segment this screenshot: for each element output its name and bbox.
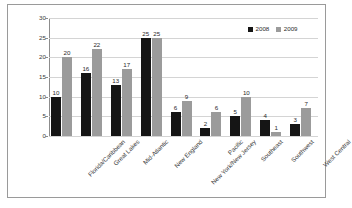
bar-value-label: 22 — [86, 42, 108, 48]
y-tick-0: 0 — [8, 133, 46, 139]
bar-2008 — [230, 116, 240, 136]
y-tick-mark — [45, 116, 48, 117]
bar-group: 26 — [198, 18, 228, 136]
bar-2009 — [211, 112, 221, 136]
bar-2009 — [301, 108, 311, 136]
legend-item-2009: 2009 — [276, 26, 297, 32]
bar-2008 — [141, 38, 151, 136]
legend-label-2009: 2009 — [284, 26, 298, 32]
bar-value-label: 20 — [56, 50, 78, 56]
caption-strip — [7, 192, 326, 204]
y-tick-mark — [45, 97, 48, 98]
legend-swatch-icon-2009 — [276, 27, 281, 32]
bar-2008 — [200, 128, 210, 136]
bar-2009 — [271, 132, 281, 136]
y-tick-label: 25 — [12, 35, 46, 41]
legend-label-2008: 2008 — [256, 26, 270, 32]
y-tick-mark — [45, 57, 48, 58]
y-tick-label: 5 — [12, 113, 46, 119]
chart-legend: 2008 2009 — [248, 26, 298, 32]
bar-2009 — [241, 97, 251, 136]
x-axis-labels: Florida/CaribbeanGreat LakesMid-Atlantic… — [49, 138, 318, 196]
legend-item-2008: 2008 — [248, 26, 269, 32]
y-tick-label: 20 — [12, 54, 46, 60]
x-axis-label: Southeast — [259, 138, 284, 163]
y-tick-5: 5 — [8, 113, 46, 119]
y-tick-10: 10 — [8, 94, 46, 100]
y-tick-mark — [45, 38, 48, 39]
bar-value-label: 17 — [116, 62, 138, 68]
chart-frame: 051015202530 102016221317252569265104137… — [7, 4, 326, 198]
bar-value-label: 4 — [254, 113, 276, 119]
bar-2008 — [81, 73, 91, 136]
y-tick-label: 15 — [12, 74, 46, 80]
bar-2008 — [111, 85, 121, 136]
y-tick-25: 25 — [8, 35, 46, 41]
bar-group: 69 — [169, 18, 199, 136]
y-tick-label: 10 — [12, 94, 46, 100]
bar-2009 — [152, 38, 162, 136]
bar-value-label: 7 — [295, 101, 317, 107]
bar-value-label: 9 — [176, 94, 198, 100]
y-tick-mark — [45, 136, 48, 137]
x-axis-label: Southwest — [290, 138, 315, 163]
bar-2008 — [171, 112, 181, 136]
y-tick-mark — [45, 18, 48, 19]
gridline — [49, 136, 318, 137]
y-tick-label: 0 — [12, 133, 46, 139]
bar-2009 — [182, 101, 192, 136]
y-tick-mark — [45, 77, 48, 78]
bar-value-label: 10 — [235, 90, 257, 96]
x-axis-label: New England — [172, 138, 203, 169]
x-axis-label: West Central — [321, 138, 351, 168]
x-axis-label: Mid-Atlantic — [141, 138, 169, 166]
y-tick-30: 30 — [8, 15, 46, 21]
bar-value-label: 25 — [146, 31, 168, 37]
bar-group: 2525 — [139, 18, 169, 136]
y-tick-label: 30 — [12, 15, 46, 21]
bar-2009 — [62, 57, 72, 136]
bar-group: 37 — [288, 18, 318, 136]
bar-2008 — [290, 124, 300, 136]
bar-2008 — [51, 97, 61, 136]
y-tick-20: 20 — [8, 54, 46, 60]
bar-2009 — [92, 49, 102, 136]
y-tick-15: 15 — [8, 74, 46, 80]
bar-group: 1020 — [49, 18, 79, 136]
bar-value-label: 1 — [265, 125, 287, 131]
bar-2009 — [122, 69, 132, 136]
legend-swatch-icon-2008 — [248, 27, 253, 32]
